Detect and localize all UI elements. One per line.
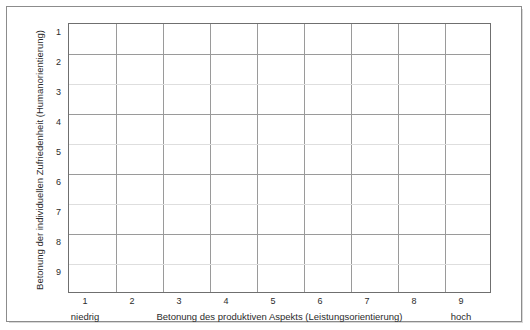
x-tick-label-5: 5 <box>263 297 283 306</box>
y-axis-title: Betonung der individuellen Zufriedenheit… <box>33 25 47 295</box>
grid-vline <box>163 24 164 292</box>
grid-hline <box>69 234 490 235</box>
y-tick-label-2: 2 <box>49 58 61 67</box>
grid-hline <box>69 54 490 55</box>
x-tick-label-6: 6 <box>310 297 330 306</box>
grid-lines <box>69 24 490 292</box>
grid-vline <box>351 24 352 292</box>
grid-hline <box>69 204 490 205</box>
x-tick-label-1: 1 <box>75 297 95 306</box>
y-tick-label-5: 5 <box>49 148 61 157</box>
x-tick-label-9: 9 <box>451 297 471 306</box>
grid-plot-area[interactable] <box>68 23 491 293</box>
y-tick-label-8: 8 <box>49 238 61 247</box>
grid-hline <box>69 84 490 85</box>
y-tick-label-4: 4 <box>49 118 61 127</box>
x-tick-label-2: 2 <box>122 297 142 306</box>
y-tick-label-6: 6 <box>49 178 61 187</box>
x-axis-high-anchor: hoch <box>438 311 484 323</box>
grid-vline <box>210 24 211 292</box>
grid-vline <box>257 24 258 292</box>
grid-hline <box>69 114 490 115</box>
x-tick-label-4: 4 <box>216 297 236 306</box>
x-axis-title: Betonung des produktiven Aspekts (Leistu… <box>68 311 491 323</box>
y-tick-label-9: 9 <box>49 268 61 277</box>
grid-vline <box>445 24 446 292</box>
grid-hline <box>69 264 490 265</box>
y-tick-label-3: 3 <box>49 88 61 97</box>
grid-hline <box>69 174 490 175</box>
grid-vline <box>304 24 305 292</box>
y-tick-label-1: 1 <box>49 28 61 37</box>
grid-hline <box>69 144 490 145</box>
x-tick-label-3: 3 <box>169 297 189 306</box>
x-tick-label-8: 8 <box>404 297 424 306</box>
grid-vline <box>398 24 399 292</box>
x-tick-label-7: 7 <box>357 297 377 306</box>
grid-vline <box>116 24 117 292</box>
figure-outer-frame: Betonung der individuellen Zufriedenheit… <box>6 6 522 322</box>
y-tick-label-7: 7 <box>49 208 61 217</box>
